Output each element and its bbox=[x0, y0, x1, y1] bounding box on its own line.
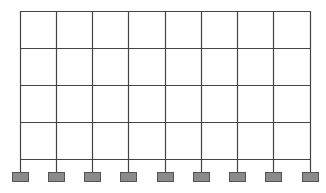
fixed-support-icon bbox=[266, 173, 282, 182]
fixed-support-icon bbox=[49, 173, 65, 182]
fixed-support-icon bbox=[194, 173, 210, 182]
fixed-supports bbox=[13, 173, 319, 182]
fixed-support-icon bbox=[230, 173, 246, 182]
fixed-support-icon bbox=[85, 173, 101, 182]
fixed-support-icon bbox=[13, 173, 29, 182]
fixed-support-icon bbox=[303, 173, 319, 182]
fixed-support-icon bbox=[158, 173, 174, 182]
frame-diagram bbox=[0, 0, 326, 193]
fixed-support-icon bbox=[121, 173, 137, 182]
columns bbox=[21, 11, 311, 172]
